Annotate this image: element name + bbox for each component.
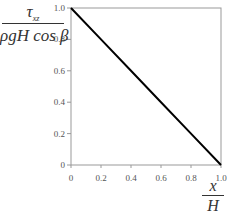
y-tick-label: 0 — [61, 160, 66, 170]
x-label-numerator: x — [200, 178, 226, 194]
y-label-numerator: τxz — [0, 2, 66, 22]
x-label-denominator: H — [200, 197, 226, 214]
y-tick-label: 0.4 — [54, 97, 66, 107]
x-tick-label: 0.8 — [185, 173, 197, 183]
x-tick-label: 0.2 — [95, 173, 106, 183]
y-tick-label: 0.6 — [54, 66, 66, 76]
x-axis-label: x H — [200, 178, 226, 214]
data-line — [71, 8, 221, 165]
y-label-denominator: ρgH cos β — [0, 26, 66, 46]
y-tick-label: 0.2 — [54, 129, 65, 139]
tau-subscript: xz — [33, 14, 40, 23]
x-tick-label: 0 — [69, 173, 74, 183]
x-tick-label: 0.6 — [155, 173, 167, 183]
fraction-bar — [202, 195, 224, 196]
x-tick-label: 0.4 — [125, 173, 137, 183]
y-axis-label: τxz ρgH cos β — [0, 2, 66, 46]
